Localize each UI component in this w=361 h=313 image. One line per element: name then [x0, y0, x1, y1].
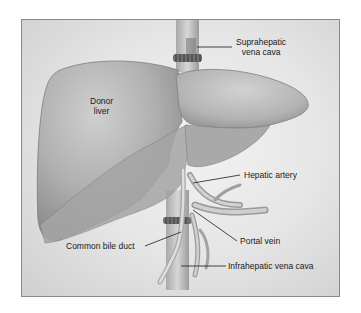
label-portal-vein: Portal vein — [240, 237, 280, 247]
liver-left-lobe — [176, 69, 308, 128]
label-hepatic-artery: Hepatic artery — [244, 171, 297, 181]
label-suprahepatic-line2: vena cava — [236, 48, 286, 58]
label-donor-liver: Donor liver — [90, 97, 113, 116]
liver-caudate-region — [185, 125, 270, 167]
label-suprahepatic-vena-cava: Suprahepatic vena cava — [236, 38, 286, 57]
label-infrahepatic-vena-cava: Infrahepatic vena cava — [228, 262, 314, 272]
label-donor-liver-line2: liver — [90, 107, 113, 117]
label-common-bile-duct: Common bile duct — [66, 242, 135, 252]
hilar-vessels — [190, 175, 265, 275]
suprahepatic-vena-cava — [173, 20, 202, 72]
